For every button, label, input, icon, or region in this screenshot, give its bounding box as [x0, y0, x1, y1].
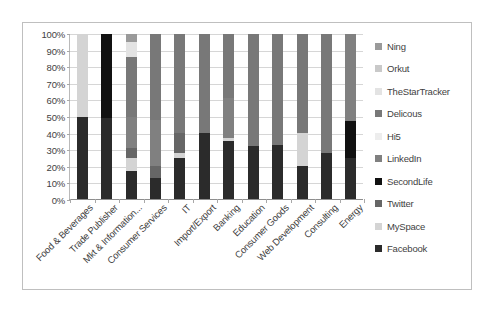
bar-segment[interactable] — [223, 34, 234, 98]
x-axis-tick-mark — [217, 199, 218, 203]
legend-swatch-icon — [375, 110, 382, 117]
bar-segment[interactable] — [223, 141, 234, 199]
bar-segment[interactable] — [199, 133, 210, 199]
chart-screenshot: 100%90%80%70%60%50%40%30%20%10%0% Food &… — [0, 0, 494, 314]
y-axis-tick-label: 30% — [47, 145, 65, 156]
bar-segment[interactable] — [199, 34, 210, 133]
legend-swatch-icon — [375, 43, 382, 50]
bar-segment[interactable] — [77, 117, 88, 200]
stacked-bar[interactable] — [297, 34, 308, 199]
y-axis-tick-label: 70% — [47, 78, 65, 89]
stacked-bar[interactable] — [77, 34, 88, 199]
legend-item[interactable]: Facebook — [375, 238, 467, 261]
legend-item[interactable]: Ning — [375, 35, 467, 58]
bar-segment[interactable] — [223, 98, 234, 138]
bar-slot — [168, 34, 192, 199]
bar-segment[interactable] — [272, 145, 283, 199]
x-axis-tick-mark — [340, 199, 341, 203]
stacked-bar[interactable] — [199, 34, 210, 199]
y-axis-tick-label: 40% — [47, 128, 65, 139]
legend-item[interactable]: LinkedIn — [375, 148, 467, 171]
bar-segment[interactable] — [126, 171, 137, 199]
bar-segment[interactable] — [248, 34, 259, 146]
bar-segment[interactable] — [126, 148, 137, 158]
bar-segment[interactable] — [345, 121, 356, 157]
bar-segment[interactable] — [297, 133, 308, 166]
bar-slot — [290, 34, 314, 199]
y-axis-tick-label: 80% — [47, 62, 65, 73]
bar-segment[interactable] — [174, 158, 185, 199]
legend-swatch-icon — [375, 133, 382, 140]
x-axis-tick-mark — [266, 199, 267, 203]
legend-item[interactable]: Orkut — [375, 58, 467, 81]
stacked-bar[interactable] — [101, 34, 112, 199]
x-axis-tick-mark — [119, 199, 120, 203]
bar-series-group — [70, 34, 363, 199]
bar-slot — [339, 34, 363, 199]
x-axis-tick-mark — [364, 199, 365, 203]
legend-label: TheStarTracker — [387, 86, 450, 97]
legend-item[interactable]: Hi5 — [375, 125, 467, 148]
legend-swatch-icon — [375, 245, 382, 252]
legend-label: Delicous — [387, 108, 422, 119]
bar-segment[interactable] — [321, 34, 332, 153]
bar-segment[interactable] — [174, 133, 185, 153]
x-axis-tick-mark — [95, 199, 96, 203]
bar-segment[interactable] — [345, 34, 356, 121]
y-axis-tick-label: 10% — [47, 178, 65, 189]
bar-slot — [70, 34, 94, 199]
y-axis-tick-label: 90% — [47, 45, 65, 56]
bar-segment[interactable] — [297, 166, 308, 199]
bar-segment[interactable] — [126, 57, 137, 116]
bar-segment[interactable] — [297, 34, 308, 133]
legend-item[interactable]: TheStarTracker — [375, 80, 467, 103]
bar-segment[interactable] — [150, 120, 161, 166]
bar-segment[interactable] — [174, 34, 185, 133]
stacked-bar[interactable] — [150, 34, 161, 199]
legend-item[interactable]: Delicous — [375, 103, 467, 126]
bar-segment[interactable] — [126, 42, 137, 57]
x-axis-tick-mark — [144, 199, 145, 203]
bar-segment[interactable] — [126, 117, 137, 148]
legend-swatch-icon — [375, 223, 382, 230]
bar-segment[interactable] — [150, 166, 161, 178]
stacked-bar[interactable] — [321, 34, 332, 199]
bar-segment[interactable] — [101, 118, 112, 199]
x-axis-tick-mark — [315, 199, 316, 203]
bar-segment[interactable] — [101, 34, 112, 118]
bar-slot — [143, 34, 167, 199]
stacked-bar[interactable] — [272, 34, 283, 199]
legend-label: LinkedIn — [387, 153, 421, 164]
bar-slot — [241, 34, 265, 199]
chart-legend: NingOrkutTheStarTrackerDelicousHi5Linked… — [375, 35, 467, 260]
stacked-bar[interactable] — [174, 34, 185, 199]
bar-segment[interactable] — [77, 34, 88, 117]
bar-segment[interactable] — [150, 178, 161, 199]
legend-label: Hi5 — [387, 131, 401, 142]
legend-swatch-icon — [375, 178, 382, 185]
stacked-bar[interactable] — [223, 34, 234, 199]
bar-segment[interactable] — [321, 153, 332, 199]
bar-segment[interactable] — [272, 34, 283, 145]
x-axis-tick-mark — [70, 199, 71, 203]
y-axis-tick-label: 20% — [47, 161, 65, 172]
y-axis-tick-label: 100% — [42, 29, 66, 40]
legend-label: Orkut — [387, 63, 409, 74]
bar-segment[interactable] — [150, 34, 161, 120]
legend-label: Ning — [387, 41, 406, 52]
bar-segment[interactable] — [126, 158, 137, 171]
stacked-bar[interactable] — [248, 34, 259, 199]
bar-slot — [314, 34, 338, 199]
bar-segment[interactable] — [248, 146, 259, 199]
legend-item[interactable]: SecondLife — [375, 170, 467, 193]
bar-segment[interactable] — [126, 34, 137, 42]
legend-item[interactable]: Twitter — [375, 193, 467, 216]
bar-slot — [119, 34, 143, 199]
bar-segment[interactable] — [345, 158, 356, 199]
bar-slot — [265, 34, 289, 199]
legend-item[interactable]: MySpace — [375, 215, 467, 238]
legend-label: MySpace — [387, 221, 425, 232]
stacked-bar[interactable] — [126, 34, 137, 199]
plot-area: 100%90%80%70%60%50%40%30%20%10%0% — [69, 34, 363, 200]
stacked-bar[interactable] — [345, 34, 356, 199]
